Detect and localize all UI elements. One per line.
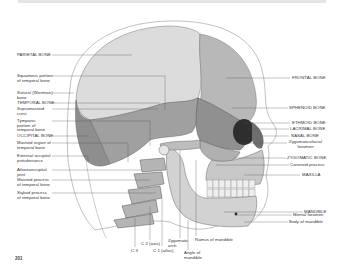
label-ramus-of-mandible: Ramus of mandible bbox=[195, 238, 233, 243]
label-zygomatic-bone: ZYGOMATIC BONE bbox=[287, 156, 326, 161]
label-body-of-mandible: Body of mandible bbox=[289, 220, 323, 225]
label-maxilla: MAXILLA bbox=[302, 173, 321, 178]
label-occipital-bone: OCCIPITAL BONE bbox=[17, 134, 53, 139]
label-external-occipital-protuberance: External occipital protuberance bbox=[17, 154, 50, 163]
upper-teeth bbox=[207, 180, 255, 188]
label-nasal-bone: NASAL BONE bbox=[291, 134, 319, 139]
label-angle-of-mandible: Angle of mandible bbox=[184, 251, 202, 260]
label-atlantooccipital-joint: Atlantooccipital joint bbox=[17, 168, 47, 177]
label-coronoid-process: Coronoid process bbox=[290, 163, 324, 168]
label-zygomaticofacial-foramen: Zygomaticofacial foramen bbox=[289, 140, 322, 149]
label-styloid-process: Styloid process of temporal bone bbox=[17, 191, 50, 200]
label-mastoid-process: Mastoid process of temporal bone bbox=[17, 178, 50, 187]
label-frontal-bone: FRONTAL BONE bbox=[292, 76, 326, 81]
page-number: 201 bbox=[15, 256, 23, 261]
label-temporal-bone: TEMPORAL BONE bbox=[17, 101, 55, 106]
label-zygomatic-arch: Zygomatic arch bbox=[168, 239, 188, 248]
label-parietal-bone: PARIETAL BONE bbox=[17, 53, 51, 58]
label-c3: C 3 bbox=[131, 249, 138, 254]
label-squamous-temporal: Squamous portion of temporal bone bbox=[17, 74, 53, 83]
label-c1-atlas: C 1 (atlas) bbox=[153, 249, 173, 254]
label-c2-axis: C 2 (axis) bbox=[141, 242, 160, 247]
lower-teeth bbox=[207, 189, 255, 197]
condyle bbox=[159, 145, 169, 155]
label-sphenoid-bone: SPHENOID BONE bbox=[289, 106, 325, 111]
label-sutural-bone: Sutural (Wormian) bone bbox=[17, 91, 53, 100]
label-tympanic-portion: Tympanic portion of temporal bone bbox=[17, 119, 45, 133]
label-mastoid-region: Mastoid region of temporal bone bbox=[17, 141, 51, 150]
label-supramastoid-crest: Supramastoid crest bbox=[17, 107, 44, 116]
label-mental-foramen: Mental foramen bbox=[293, 213, 324, 218]
label-lacrimal-bone: LACRIMAL BONE bbox=[290, 127, 325, 132]
label-ethmoid-bone: ETHMOID BONE bbox=[292, 121, 326, 126]
nasal-bone bbox=[252, 122, 264, 149]
